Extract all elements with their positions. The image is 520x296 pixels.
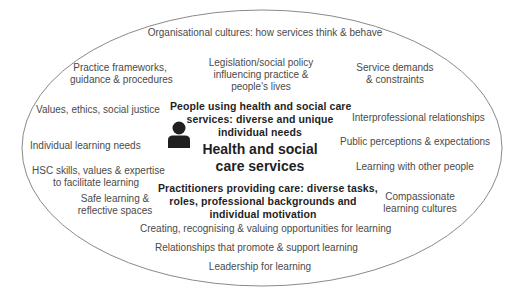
legislation-line1: Legislation/social policy [196, 57, 326, 69]
factor-compassionate-cultures: Compassionate learning cultures [380, 191, 460, 215]
legislation-line2: influencing practice & [196, 69, 326, 81]
centre-title: Health and social care services [195, 141, 325, 175]
hsc-skills-line2: to facilitate learning [32, 177, 160, 189]
practitioners-line1: Practitioners providing care: diverse ta… [158, 182, 368, 195]
compassionate-line1: Compassionate [380, 191, 460, 203]
factor-hsc-skills: HSC skills, values & expertise to facili… [32, 165, 160, 189]
factor-legislation: Legislation/social policy influencing pr… [196, 57, 326, 93]
factor-relationships: Relationships that promote & support lea… [155, 242, 355, 254]
service-demands-line1: Service demands [340, 62, 450, 74]
factor-leadership: Leadership for learning [200, 261, 320, 273]
service-demands-line2: & constraints [340, 74, 450, 86]
safe-learning-line2: reflective spaces [70, 205, 160, 217]
factor-service-demands: Service demands & constraints [340, 62, 450, 86]
practice-frameworks-line2: guidance & procedures [70, 74, 170, 86]
centre-title-line1: Health and social [195, 141, 325, 158]
people-line2: services: diverse and unique [170, 113, 350, 126]
practitioners-line3: individual motivation [158, 208, 368, 221]
factor-organisational-cultures: Organisational cultures: how services th… [140, 27, 390, 39]
people-using-services: People using health and social care serv… [170, 100, 350, 139]
practice-frameworks-line1: Practice frameworks, [70, 62, 170, 74]
centre-title-line2: care services [195, 158, 325, 175]
factor-interprofessional: Interprofessional relationships [352, 112, 487, 124]
hsc-skills-line1: HSC skills, values & expertise [32, 165, 160, 177]
practitioners-providing-care: Practitioners providing care: diverse ta… [158, 182, 368, 221]
people-line1: People using health and social care [170, 100, 350, 113]
factor-learning-with-others: Learning with other people [356, 161, 476, 173]
factor-values: Values, ethics, social justice [36, 104, 161, 116]
safe-learning-line1: Safe learning & [70, 193, 160, 205]
compassionate-line2: learning cultures [380, 203, 460, 215]
factor-safe-learning: Safe learning & reflective spaces [70, 193, 160, 217]
people-line3: individual needs [170, 126, 350, 139]
factor-practice-frameworks: Practice frameworks, guidance & procedur… [70, 62, 170, 86]
person-icon [164, 118, 194, 148]
factor-individual-learning-needs: Individual learning needs [30, 140, 150, 152]
legislation-line3: people's lives [196, 81, 326, 93]
factor-public-perceptions: Public perceptions & expectations [340, 136, 490, 148]
practitioners-line2: roles, professional backgrounds and [158, 195, 368, 208]
factor-creating-opportunities: Creating, recognising & valuing opportun… [140, 223, 370, 235]
